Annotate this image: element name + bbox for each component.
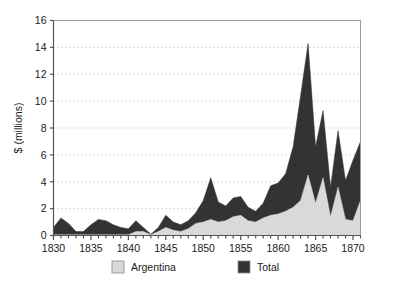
y-axis-title: $ (millions) <box>12 103 24 154</box>
y-axis-tick-label: 16 <box>35 14 47 26</box>
x-axis-tick-label: 1865 <box>304 242 328 254</box>
y-axis-tick-label: 10 <box>35 95 47 107</box>
x-axis-tick-label: 1855 <box>229 242 253 254</box>
x-axis-tick-label: 1870 <box>341 242 365 254</box>
legend-swatch-total <box>238 261 250 273</box>
x-axis-tick-label: 1860 <box>266 242 290 254</box>
legend-label-argentina: Argentina <box>131 261 176 273</box>
y-axis-tick-label: 12 <box>35 68 47 80</box>
y-axis-tick-label: 8 <box>41 122 47 134</box>
x-axis-tick-labels: 183018351840184518501855186018651870 <box>42 242 365 254</box>
y-axis-title-text: $ (millions) <box>12 103 24 154</box>
y-axis-tick-label: 14 <box>35 41 47 53</box>
y-axis-tick-label: 0 <box>41 229 47 241</box>
y-axis-tick-label: 2 <box>41 202 47 214</box>
y-axis-tick-label: 6 <box>41 149 47 161</box>
x-axis-tick-label: 1830 <box>42 242 66 254</box>
x-axis-tick-label: 1835 <box>79 242 103 254</box>
area-chart: 0246810121416 18301835184018451850185518… <box>0 0 400 293</box>
legend-label-total: Total <box>257 261 279 273</box>
x-axis-tick-label: 1840 <box>117 242 141 254</box>
x-axis-tick-label: 1845 <box>154 242 178 254</box>
x-axis-tick-label: 1850 <box>192 242 216 254</box>
legend-swatch-argentina <box>112 261 124 273</box>
chart-figure: 0246810121416 18301835184018451850185518… <box>0 0 400 293</box>
y-axis-tick-label: 4 <box>41 176 47 188</box>
